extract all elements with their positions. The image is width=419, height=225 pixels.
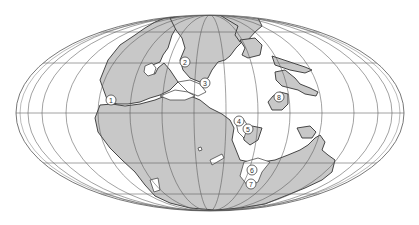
lake-dot — [198, 147, 202, 151]
locality-number: 8 — [277, 94, 281, 101]
locality-number: 2 — [183, 59, 187, 66]
locality-marker-5: 5 — [243, 124, 253, 134]
locality-number: 5 — [246, 126, 250, 133]
paleogeographic-map: 12345678 — [0, 0, 419, 225]
locality-marker-7: 7 — [246, 179, 256, 189]
locality-marker-3: 3 — [200, 78, 210, 88]
locality-number: 6 — [250, 167, 254, 174]
locality-number: 1 — [109, 97, 113, 104]
locality-marker-8: 8 — [274, 92, 284, 102]
locality-marker-6: 6 — [247, 165, 257, 175]
locality-number: 4 — [237, 118, 241, 125]
locality-number: 3 — [203, 80, 207, 87]
locality-marker-2: 2 — [180, 57, 190, 67]
locality-marker-4: 4 — [234, 116, 244, 126]
map-svg: 12345678 — [0, 0, 419, 225]
locality-number: 7 — [249, 181, 253, 188]
locality-marker-1: 1 — [106, 95, 116, 105]
